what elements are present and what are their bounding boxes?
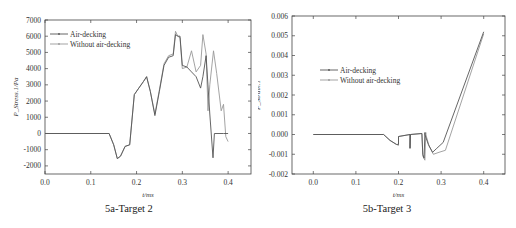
x-tick-label: 0.1 — [86, 178, 96, 187]
caption-target3: 5b-Target 3 — [258, 203, 516, 214]
x-tick-label: 0.2 — [132, 178, 142, 187]
y-tick-label: -1000 — [24, 145, 42, 154]
chart-panel-target3: 0.00.10.20.30.4-0.002-0.0010.0000.0010.0… — [258, 0, 516, 228]
chart-panel-target2: 0.00.10.20.30.4-2000-1000010002000300040… — [0, 0, 258, 228]
y-tick-label: 0.000 — [271, 130, 288, 139]
x-tick-label: 0.3 — [178, 178, 188, 187]
x-tick-label: 0.0 — [40, 178, 50, 187]
y-tick-label: 6000 — [26, 32, 41, 41]
plot-frame — [292, 16, 505, 174]
series-line-air-decking — [45, 35, 228, 159]
x-tick-label: 0.4 — [223, 178, 233, 187]
y-axis-label: P_Stress.1/Pa — [12, 77, 20, 118]
y-tick-label: 0.005 — [271, 31, 288, 40]
y-tick-label: -0.001 — [269, 150, 289, 159]
y-axis-label: P_Strain.1 — [258, 80, 262, 111]
x-axis-label: t/ms — [393, 191, 405, 199]
y-tick-label: 1000 — [26, 113, 41, 122]
y-tick-label: -0.002 — [269, 170, 289, 179]
x-tick-label: 0.1 — [351, 178, 361, 187]
y-tick-label: 0.001 — [271, 110, 288, 119]
y-tick-label: 7000 — [26, 16, 41, 25]
y-tick-label: 0.002 — [271, 91, 288, 100]
series-line-air-decking — [313, 32, 483, 158]
y-tick-label: 2000 — [26, 97, 41, 106]
y-tick-label: 0.006 — [271, 12, 288, 21]
line-chart-target3: 0.00.10.20.30.4-0.002-0.0010.0000.0010.0… — [258, 0, 516, 228]
line-chart-target2: 0.00.10.20.30.4-2000-1000010002000300040… — [0, 0, 258, 228]
y-tick-label: 0.003 — [271, 71, 288, 80]
y-tick-label: 0 — [37, 129, 41, 138]
x-tick-label: 0.0 — [309, 178, 319, 187]
legend-entry: Without air-decking — [70, 40, 130, 49]
x-tick-label: 0.3 — [436, 178, 446, 187]
x-tick-label: 0.4 — [479, 178, 489, 187]
y-tick-label: -2000 — [24, 161, 42, 170]
caption-target2: 5a-Target 2 — [0, 203, 258, 214]
y-tick-label: 4000 — [26, 64, 41, 73]
legend-entry: Air-decking — [340, 66, 376, 75]
y-tick-label: 0.004 — [271, 51, 288, 60]
legend-entry: Without air-decking — [340, 76, 400, 85]
legend-entry: Air-decking — [70, 30, 106, 39]
y-tick-label: 5000 — [26, 48, 41, 57]
x-axis-label: t/ms — [142, 191, 154, 199]
series-line-without-air-decking — [45, 31, 228, 158]
y-tick-label: 3000 — [26, 80, 41, 89]
x-tick-label: 0.2 — [394, 178, 404, 187]
